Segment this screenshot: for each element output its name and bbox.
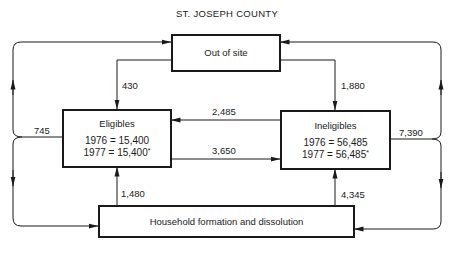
node-label: Eligibles [99,118,134,130]
flow-label-out-to-eligibles: 430 [122,80,138,91]
node-label: Household formation and dissolution [150,216,304,228]
asterisk-footnote-marker: * [148,147,151,154]
node-household-formation: Household formation and dissolution [98,205,355,238]
node-label: Out of site [204,47,247,59]
asterisk-footnote-marker: * [366,149,369,156]
eligibles-1976-value: 1976 = 15,400 [85,135,149,147]
flow-label-out-to-ineligibles: 1,880 [341,80,365,91]
ineligibles-1977-value: 1977 = 56,485* [302,149,369,161]
flow-label-household-to-eligibles: 1,480 [121,188,145,199]
arrow-out-to-ineligibles [280,60,335,110]
ineligibles-1976-value: 1976 = 56,485 [303,137,367,149]
flow-label-household-to-ineligibles: 4,345 [341,189,365,200]
flow-label-eligibles-to-ineligibles: 3,650 [212,145,236,156]
flow-label-ineligibles-to-eligibles: 2,485 [212,106,236,117]
flow-label-eligibles-outflow: 745 [34,125,50,136]
flow-label-ineligibles-outflow: 7,390 [399,127,423,138]
node-out-of-site: Out of site [171,34,281,72]
node-eligibles: Eligibles 1976 = 15,400 1977 = 15,400* [62,109,172,168]
node-ineligibles: Ineligibles 1976 = 56,485 1977 = 56,485* [280,110,391,170]
node-label: Ineligibles [314,120,356,132]
diagram-title: ST. JOSEPH COUNTY [0,8,454,19]
eligibles-1977-value: 1977 = 15,400* [84,147,151,159]
